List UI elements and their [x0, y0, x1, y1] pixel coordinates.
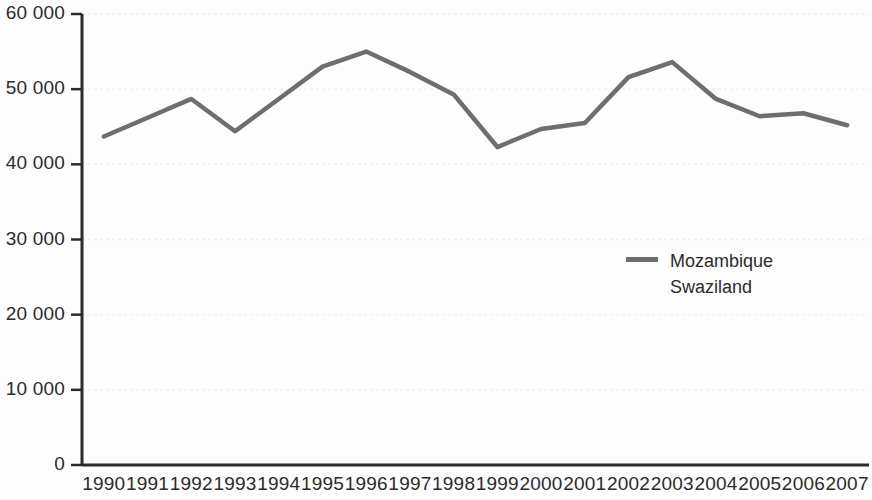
y-axis-tick-label: 30 000: [6, 228, 65, 250]
line-chart: 010 00020 00030 00040 00050 00060 000 19…: [0, 0, 872, 500]
legend-item-mozambique[interactable]: Mozambique: [626, 248, 773, 274]
y-axis-tick-label: 60 000: [6, 2, 65, 24]
y-axis-tick-label: 0: [54, 453, 65, 475]
y-axis-tick-label: 40 000: [6, 152, 65, 174]
y-axis-tick-label: 50 000: [6, 77, 65, 99]
legend-swatch-swaziland: [626, 283, 658, 288]
y-axis-tick-label: 10 000: [6, 378, 65, 400]
gridlines: [82, 14, 869, 390]
legend-label-mozambique: Mozambique: [670, 248, 773, 274]
legend-label-swaziland: Swaziland: [670, 274, 752, 300]
y-axis-ticks: [71, 14, 82, 465]
legend-item-swaziland[interactable]: Swaziland: [626, 274, 773, 300]
y-axis-tick-label: 20 000: [6, 303, 65, 325]
chart-legend: Mozambique Swaziland: [626, 248, 773, 300]
series-line-mozambique: [104, 52, 847, 147]
legend-swatch-mozambique: [626, 257, 658, 262]
x-axis-tick-label: 2007: [819, 473, 872, 495]
